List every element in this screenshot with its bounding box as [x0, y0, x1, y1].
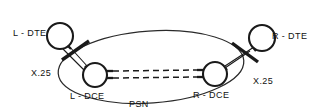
node-l-dce[interactable] [83, 63, 107, 87]
node-r-dce[interactable] [203, 62, 227, 86]
label-r-dce: R - DCE [193, 91, 229, 100]
label-l-dce: L - DCE [70, 92, 104, 101]
network-diagram: L - DTE R - DTE X.25 X.25 L - DCE R - DC… [0, 0, 323, 111]
virtual-circuit-line-lower [113, 77, 197, 78]
label-r-dte: R - DTE [272, 32, 307, 41]
node-l-dte[interactable] [47, 23, 73, 49]
virtual-circuit-line-upper [113, 70, 197, 71]
label-l-dte: L - DTE [13, 29, 46, 38]
virtual-circuit-links [107, 70, 204, 78]
label-x25-left: X.25 [31, 69, 51, 78]
diagram-canvas [0, 0, 323, 111]
label-x25-right: X.25 [253, 77, 273, 86]
label-psn: PSN [129, 100, 149, 109]
